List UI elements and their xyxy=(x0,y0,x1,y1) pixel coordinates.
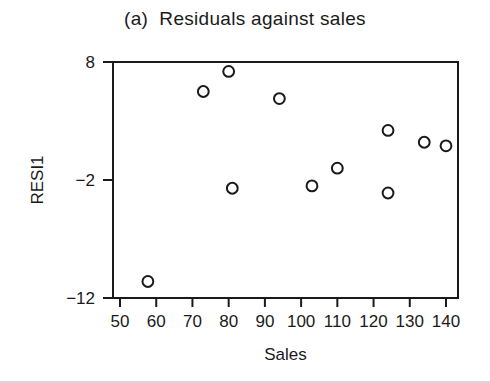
x-axis-tick-label: 90 xyxy=(255,312,274,331)
data-point xyxy=(441,140,452,151)
data-point xyxy=(383,188,394,199)
y-axis-tick-label: −2 xyxy=(76,171,95,190)
y-axis-title: RESI1 xyxy=(28,155,47,204)
data-point xyxy=(419,137,430,148)
x-axis-tick-label: 100 xyxy=(287,312,315,331)
x-axis-tick-label: 80 xyxy=(219,312,238,331)
data-point xyxy=(223,66,234,77)
x-axis-title: Sales xyxy=(264,345,307,364)
data-point xyxy=(383,125,394,136)
x-axis-tick-label: 120 xyxy=(359,312,387,331)
data-point xyxy=(307,181,318,192)
data-point xyxy=(142,276,153,287)
data-point xyxy=(332,163,343,174)
data-point xyxy=(198,86,209,97)
x-axis-tick-label: 50 xyxy=(111,312,130,331)
data-point xyxy=(227,183,238,194)
x-axis-tick-label: 110 xyxy=(324,312,351,331)
y-axis-tick-label: −12 xyxy=(66,289,95,308)
figure-panel: (a) Residuals against sales 506070809010… xyxy=(0,0,490,383)
x-axis-tick-label: 60 xyxy=(147,312,166,331)
y-axis-tick-label: 8 xyxy=(86,53,95,72)
scatter-plot: 50607080901001101201301408−2−12SalesRESI… xyxy=(0,0,490,383)
x-axis-tick-label: 140 xyxy=(432,312,460,331)
x-axis-tick-label: 70 xyxy=(183,312,202,331)
x-axis-tick-label: 130 xyxy=(396,312,424,331)
data-point xyxy=(274,93,285,104)
